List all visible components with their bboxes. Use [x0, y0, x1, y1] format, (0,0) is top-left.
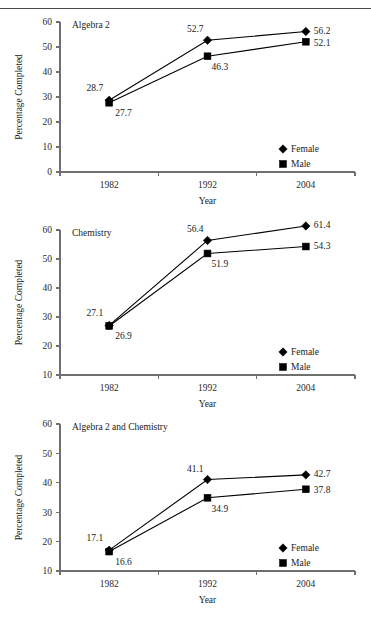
svg-text:10: 10	[43, 142, 53, 152]
svg-text:2004: 2004	[296, 383, 315, 393]
svg-text:Algebra 2 and Chemistry: Algebra 2 and Chemistry	[72, 422, 168, 432]
svg-text:28.7: 28.7	[87, 83, 104, 93]
svg-text:17.1: 17.1	[87, 533, 104, 543]
svg-text:20: 20	[43, 537, 53, 547]
svg-text:61.4: 61.4	[314, 220, 331, 230]
svg-text:30: 30	[43, 508, 53, 518]
svg-text:Percentage Completed: Percentage Completed	[14, 454, 24, 540]
svg-text:Male: Male	[291, 558, 311, 568]
svg-text:Percentage Completed: Percentage Completed	[14, 259, 24, 345]
svg-text:30: 30	[43, 312, 53, 322]
header-rule	[0, 8, 371, 9]
svg-text:Year: Year	[199, 399, 217, 408]
svg-text:27.7: 27.7	[115, 108, 132, 118]
svg-text:1982: 1982	[100, 180, 119, 190]
svg-text:16.6: 16.6	[115, 557, 132, 567]
svg-text:Female: Female	[291, 543, 319, 553]
svg-text:34.9: 34.9	[212, 504, 229, 514]
svg-text:0: 0	[47, 167, 52, 177]
header-faint-text	[70, 0, 290, 7]
svg-text:50: 50	[43, 42, 53, 52]
svg-text:26.9: 26.9	[115, 331, 132, 341]
svg-text:Female: Female	[291, 347, 319, 357]
chart-panel-algebra-2: 0102030405060198219922004Percentage Comp…	[0, 12, 371, 208]
svg-text:56.4: 56.4	[187, 224, 204, 234]
svg-text:40: 40	[43, 478, 53, 488]
svg-text:Year: Year	[199, 196, 217, 206]
svg-text:40: 40	[43, 283, 53, 293]
svg-text:20: 20	[43, 117, 53, 127]
svg-text:2004: 2004	[296, 579, 315, 589]
svg-text:40: 40	[43, 67, 53, 77]
svg-text:60: 60	[43, 17, 53, 27]
svg-text:42.7: 42.7	[314, 469, 331, 479]
svg-text:1982: 1982	[100, 579, 119, 589]
figure-page: 0102030405060198219922004Percentage Comp…	[0, 0, 371, 618]
svg-text:60: 60	[43, 419, 53, 429]
svg-text:Year: Year	[199, 595, 217, 605]
svg-text:10: 10	[43, 370, 53, 380]
svg-text:27.1: 27.1	[87, 308, 104, 318]
svg-text:1982: 1982	[100, 383, 119, 393]
svg-text:37.8: 37.8	[314, 485, 331, 495]
svg-text:60: 60	[43, 225, 53, 235]
svg-text:54.3: 54.3	[314, 241, 331, 251]
svg-text:30: 30	[43, 92, 53, 102]
svg-text:52.7: 52.7	[187, 24, 204, 34]
svg-text:Percentage Completed: Percentage Completed	[14, 54, 24, 140]
svg-text:1992: 1992	[198, 383, 217, 393]
svg-text:Chemistry: Chemistry	[72, 228, 112, 238]
svg-text:50: 50	[43, 254, 53, 264]
svg-text:Male: Male	[291, 362, 311, 372]
svg-text:Female: Female	[291, 144, 319, 154]
svg-text:41.1: 41.1	[187, 464, 204, 474]
svg-text:20: 20	[43, 341, 53, 351]
svg-text:2004: 2004	[296, 180, 315, 190]
svg-text:Male: Male	[291, 159, 311, 169]
svg-text:1992: 1992	[198, 180, 217, 190]
svg-text:Algebra 2: Algebra 2	[72, 20, 110, 30]
svg-text:52.1: 52.1	[314, 38, 331, 48]
svg-text:51.9: 51.9	[212, 259, 229, 269]
chart-panel-chemistry: 102030405060198219922004Percentage Compl…	[0, 212, 371, 408]
svg-text:56.2: 56.2	[314, 26, 331, 36]
svg-text:46.3: 46.3	[212, 62, 229, 72]
svg-text:50: 50	[43, 449, 53, 459]
svg-text:10: 10	[43, 566, 53, 576]
svg-text:1992: 1992	[198, 579, 217, 589]
chart-panel-algebra-2-and-chemistry: 102030405060198219922004Percentage Compl…	[0, 408, 371, 618]
